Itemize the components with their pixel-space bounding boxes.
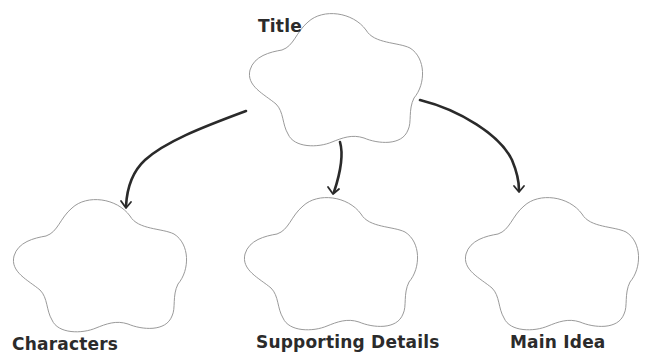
arrow-to-main-idea	[420, 100, 524, 192]
cloud-main-idea	[465, 198, 638, 330]
cloud-supporting-details	[244, 198, 417, 330]
diagram-canvas	[0, 0, 646, 364]
label-title: Title	[258, 16, 302, 36]
label-main-idea: Main Idea	[510, 332, 606, 352]
cloud-characters	[13, 200, 186, 332]
arrow-to-supporting-details	[328, 142, 342, 194]
label-supporting-details: Supporting Details	[256, 332, 440, 352]
arrow-to-characters	[121, 111, 246, 208]
label-characters: Characters	[12, 334, 118, 354]
